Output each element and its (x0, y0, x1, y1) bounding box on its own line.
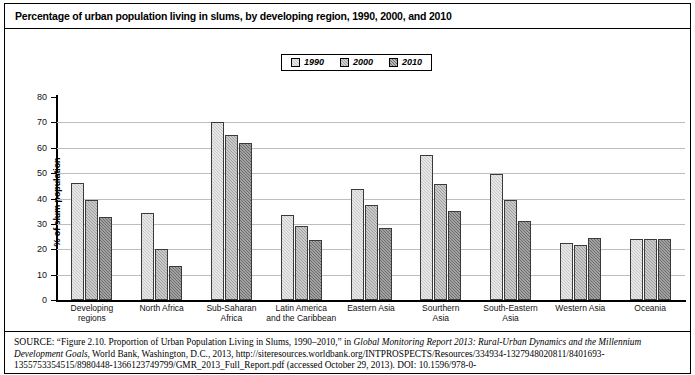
bar-2000[interactable] (295, 226, 308, 300)
bar-2010[interactable] (239, 143, 252, 300)
source-part1: “Figure 2.10. Proportion of Urban Popula… (55, 337, 354, 347)
figure-title-box: Percentage of urban population living in… (4, 3, 691, 29)
x-axis-line (56, 300, 686, 302)
bar-1990[interactable] (630, 239, 643, 300)
y-tick-60 (51, 148, 56, 149)
y-tick-30 (51, 224, 56, 225)
bar-group (351, 97, 392, 300)
bar-2010[interactable] (448, 211, 461, 300)
legend-swatch-2010 (389, 58, 398, 67)
bar-group (281, 97, 322, 300)
bar-2000[interactable] (365, 205, 378, 300)
bar-1990[interactable] (281, 215, 294, 301)
legend-label-2010: 2010 (402, 58, 422, 67)
category-label-line: Asia (468, 313, 554, 323)
y-tick-40 (51, 199, 56, 200)
category-label-line: and the Caribbean (258, 313, 344, 323)
y-tick-label-70: 70 (5, 117, 47, 127)
legend-label-1990: 1990 (304, 58, 324, 67)
y-tick-label-40: 40 (5, 194, 47, 204)
bar-1990[interactable] (211, 122, 224, 300)
bar-group-bars (281, 97, 322, 300)
bar-2010[interactable] (588, 238, 601, 300)
chart-panel: 1990 2000 2010 % of slum population 0102… (4, 29, 691, 332)
legend-entry-1990: 1990 (291, 58, 324, 67)
bar-2010[interactable] (658, 239, 671, 300)
bar-2000[interactable] (85, 200, 98, 300)
chart-legend: 1990 2000 2010 (281, 54, 432, 71)
bar-1990[interactable] (351, 189, 364, 300)
category-label-line: regions (49, 313, 135, 323)
bar-group-bars (211, 97, 252, 300)
y-tick-50 (51, 173, 56, 174)
bar-group-bars (71, 97, 112, 300)
category-label-line: Oceania (607, 303, 693, 313)
bar-group (490, 97, 531, 300)
bar-2000[interactable] (155, 249, 168, 301)
bar-2010[interactable] (309, 240, 322, 300)
y-tick-20 (51, 249, 56, 250)
bar-group-bars (351, 97, 392, 300)
bar-group (560, 97, 601, 300)
bar-2000[interactable] (574, 245, 587, 300)
bar-2010[interactable] (169, 266, 182, 300)
bar-2000[interactable] (225, 135, 238, 300)
bar-group (141, 97, 182, 300)
y-tick-0 (51, 300, 56, 301)
legend-entry-2000: 2000 (340, 58, 373, 67)
legend-swatch-2000 (340, 58, 349, 67)
y-tick-label-80: 80 (5, 92, 47, 102)
bar-2010[interactable] (99, 217, 112, 300)
y-tick-label-10: 10 (5, 270, 47, 280)
bar-1990[interactable] (71, 183, 84, 300)
bar-2010[interactable] (518, 221, 531, 300)
bar-1990[interactable] (420, 155, 433, 300)
figure-container: Percentage of urban population living in… (0, 0, 695, 375)
bar-1990[interactable] (490, 174, 503, 300)
bar-1990[interactable] (141, 213, 154, 300)
y-tick-70 (51, 122, 56, 123)
bar-2010[interactable] (379, 228, 392, 300)
bar-group-bars (141, 97, 182, 300)
bar-2000[interactable] (504, 200, 517, 300)
bar-group-bars (420, 97, 461, 300)
bar-1990[interactable] (560, 243, 573, 300)
legend-swatch-1990 (291, 58, 300, 67)
y-tick-10 (51, 275, 56, 276)
source-part2: , World Bank, Washington, D.C., 2013, ht… (14, 349, 605, 371)
y-tick-label-20: 20 (5, 244, 47, 254)
bar-group (420, 97, 461, 300)
bar-group-bars (560, 97, 601, 300)
bar-group (630, 97, 671, 300)
y-tick-80 (51, 97, 56, 98)
source-prefix: SOURCE: (14, 336, 55, 347)
source-note-box: SOURCE: “Figure 2.10. Proportion of Urba… (4, 332, 691, 374)
category-label: Oceania (607, 303, 693, 313)
bar-group-bars (490, 97, 531, 300)
bar-2000[interactable] (434, 184, 447, 300)
bar-group-bars (630, 97, 671, 300)
bar-group (211, 97, 252, 300)
legend-label-2000: 2000 (353, 58, 373, 67)
source-note: SOURCE: “Figure 2.10. Proportion of Urba… (14, 336, 679, 372)
legend-entry-2010: 2010 (389, 58, 422, 67)
y-tick-label-30: 30 (5, 219, 47, 229)
plot-area: DevelopingregionsNorth AfricaSub-Saharan… (57, 97, 685, 300)
y-tick-label-50: 50 (5, 168, 47, 178)
y-tick-label-0: 0 (5, 295, 47, 305)
bar-2000[interactable] (644, 239, 657, 300)
page-title: Percentage of urban population living in… (15, 10, 452, 22)
bar-group (71, 97, 112, 300)
y-tick-label-60: 60 (5, 143, 47, 153)
